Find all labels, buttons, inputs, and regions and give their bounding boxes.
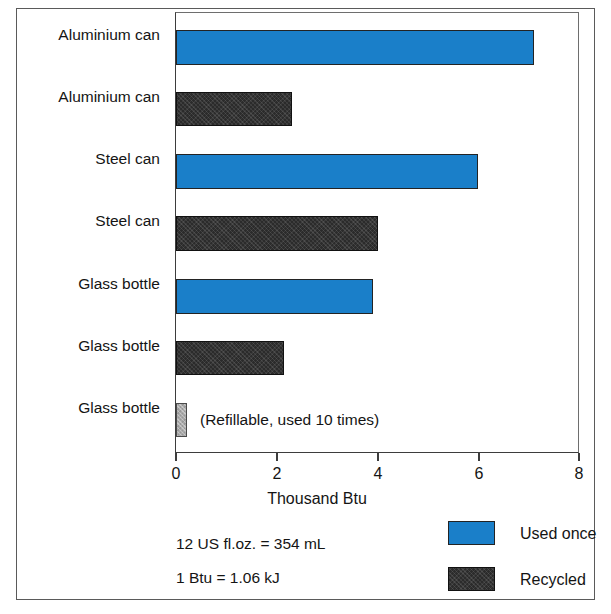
x-tick-mark-2	[276, 453, 278, 461]
category-label-glass-bottle-refillable: Glass bottle	[0, 400, 168, 416]
x-tick-label-0: 0	[172, 466, 181, 482]
x-tick-label-2: 2	[273, 466, 282, 482]
category-label-glass-bottle-recycled: Glass bottle	[0, 338, 168, 354]
bar-glass-bottle-refillable	[176, 403, 187, 437]
bar-steel-can-used-once	[176, 154, 478, 189]
refillable-annotation: (Refillable, used 10 times)	[200, 412, 379, 428]
x-tick-label-4: 4	[374, 466, 383, 482]
bar-glass-bottle-recycled	[176, 341, 284, 375]
legend-swatch-used-once	[448, 521, 495, 545]
legend-label-recycled: Recycled	[520, 572, 586, 588]
x-axis-title: Thousand Btu	[267, 491, 367, 507]
legend-swatch-recycled	[448, 567, 495, 591]
bar-aluminium-can-used-once	[176, 30, 534, 65]
legend-label-used-once: Used once	[520, 526, 597, 542]
x-tick-mark-8	[578, 453, 580, 461]
bar-glass-bottle-used-once	[176, 279, 373, 314]
category-label-steel-can-used-once: Steel can	[0, 151, 168, 167]
chart-figure: (Refillable, used 10 times) Aluminium ca…	[0, 0, 611, 614]
x-tick-mark-6	[478, 453, 480, 461]
plot-area: (Refillable, used 10 times)	[175, 12, 579, 453]
footnote-volume: 12 US fl.oz. = 354 mL	[176, 536, 325, 552]
category-axis-labels: Aluminium can Aluminium can Steel can St…	[0, 0, 168, 614]
x-tick-mark-4	[377, 453, 379, 461]
category-label-aluminium-can-used-once: Aluminium can	[0, 27, 168, 43]
x-tick-label-8: 8	[575, 466, 584, 482]
bar-aluminium-can-recycled	[176, 92, 292, 126]
x-tick-mark-0	[175, 453, 177, 461]
category-label-steel-can-recycled: Steel can	[0, 213, 168, 229]
footnote-energy: 1 Btu = 1.06 kJ	[176, 570, 280, 586]
category-label-glass-bottle-used-once: Glass bottle	[0, 276, 168, 292]
category-label-aluminium-can-recycled: Aluminium can	[0, 89, 168, 105]
x-tick-label-6: 6	[475, 466, 484, 482]
bar-steel-can-recycled	[176, 216, 378, 251]
